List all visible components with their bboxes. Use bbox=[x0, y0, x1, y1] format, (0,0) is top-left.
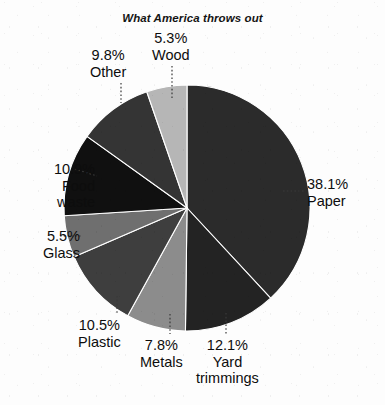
pie-label-food-waste-name2: waste bbox=[54, 194, 95, 211]
pie-label-other-name: Other bbox=[90, 64, 126, 81]
pie-label-plastic: 10.5% Plastic bbox=[78, 317, 121, 350]
pie-chart-figure: What America throws out 38.1% Paper 12.1… bbox=[0, 0, 385, 405]
pie-label-yard-trimmings-name: Yard bbox=[196, 354, 259, 371]
pie-label-paper-name: Paper bbox=[307, 193, 348, 210]
pie-label-wood-percent: 5.3% bbox=[152, 30, 190, 47]
pie-label-food-waste-percent: 10.9% bbox=[54, 161, 95, 178]
pie-label-yard-trimmings-percent: 12.1% bbox=[196, 337, 259, 354]
pie-label-other: 9.8% Other bbox=[90, 47, 126, 80]
pie-label-wood-name: Wood bbox=[152, 47, 190, 64]
pie-label-food-waste-name: Food bbox=[54, 178, 95, 195]
pie-label-plastic-percent: 10.5% bbox=[78, 317, 121, 334]
pie-label-paper-percent: 38.1% bbox=[307, 176, 348, 193]
pie-label-yard-trimmings-name2: trimmings bbox=[196, 370, 259, 387]
pie-label-glass-name: Glass bbox=[43, 245, 80, 262]
pie-label-other-percent: 9.8% bbox=[90, 47, 126, 64]
pie-label-food-waste: 10.9% Food waste bbox=[54, 161, 95, 211]
pie-label-metals-percent: 7.8% bbox=[140, 337, 183, 354]
pie-slice-group bbox=[64, 85, 310, 331]
pie-label-glass: 5.5% Glass bbox=[43, 228, 80, 261]
pie-label-metals: 7.8% Metals bbox=[140, 337, 183, 370]
pie-label-wood: 5.3% Wood bbox=[152, 30, 190, 63]
pie-label-yard-trimmings: 12.1% Yard trimmings bbox=[196, 337, 259, 387]
pie-label-plastic-name: Plastic bbox=[78, 334, 121, 351]
pie-label-metals-name: Metals bbox=[140, 354, 183, 371]
pie-label-glass-percent: 5.5% bbox=[43, 228, 80, 245]
pie-label-paper: 38.1% Paper bbox=[307, 176, 348, 209]
